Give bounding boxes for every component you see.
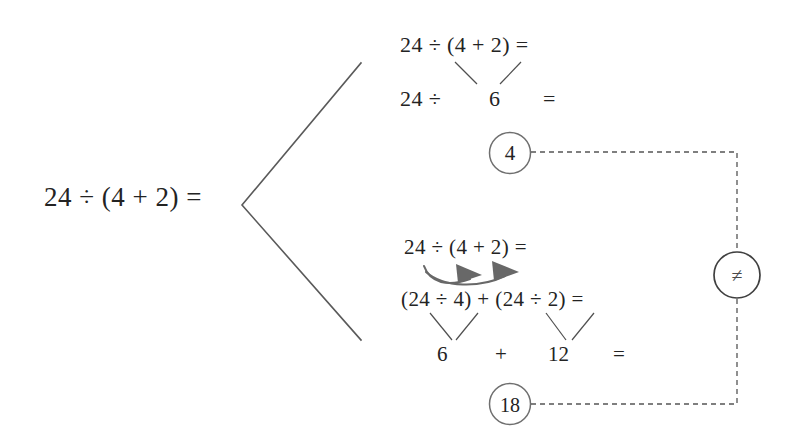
dashed-connector-top xyxy=(531,152,737,252)
diagram-canvas xyxy=(0,0,796,441)
not-equal-symbol: ≠ xyxy=(722,265,752,285)
curved-arrow-icon-left xyxy=(424,264,482,283)
top-branch-result: 4 xyxy=(497,143,523,164)
converging-lines-icon-right xyxy=(546,313,594,340)
top-branch-line-2-left: 24 ÷ xyxy=(400,88,441,110)
bottom-branch-line-3-plus: + xyxy=(495,344,507,365)
bottom-branch-result: 18 xyxy=(492,395,528,415)
top-branch-line-1: 24 ÷ (4 + 2) = xyxy=(400,34,529,56)
root-expression: 24 ÷ (4 + 2) = xyxy=(44,184,202,211)
bottom-branch-line-3-right: 12 xyxy=(548,344,569,365)
converging-lines-icon-left xyxy=(430,313,478,340)
top-branch-line-2-equals: = xyxy=(543,88,555,110)
bottom-branch-line-3-equals: = xyxy=(613,344,625,365)
bottom-branch-line-3-left: 6 xyxy=(437,344,448,365)
top-branch-line-2-middle: 6 xyxy=(489,88,500,110)
bottom-branch-line-1: 24 ÷ (4 + 2) = xyxy=(404,237,527,258)
converging-lines-icon xyxy=(455,62,521,84)
angle-bracket-left-icon xyxy=(242,63,361,340)
bottom-branch-line-2: (24 ÷ 4) + (24 ÷ 2) = xyxy=(401,289,584,310)
